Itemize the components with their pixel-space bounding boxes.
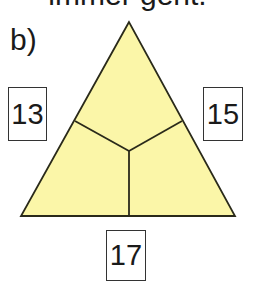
- number-box-right: 15: [203, 87, 243, 141]
- number-box-left: 13: [8, 87, 47, 141]
- number-box-bottom: 17: [106, 230, 146, 281]
